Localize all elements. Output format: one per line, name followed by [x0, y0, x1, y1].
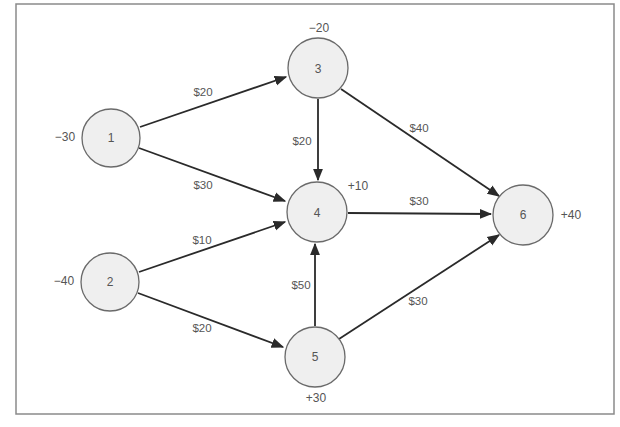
edge-cost-3-4: $20 [292, 135, 311, 147]
network-diagram: $20 $30 $10 $20 $20 $40 $30 $50 $30 1 −3… [0, 0, 620, 427]
edge-4-6 [348, 213, 491, 214]
node-label: 3 [315, 62, 322, 76]
node-supply: −40 [54, 274, 75, 288]
node-label: 4 [314, 206, 321, 220]
node-label: 6 [520, 208, 527, 222]
node-supply: +30 [306, 391, 327, 405]
node-supply: −20 [309, 21, 330, 35]
edge-cost-2-5: $20 [192, 322, 211, 334]
edge-cost-3-6: $40 [409, 122, 428, 134]
node-label: 1 [108, 131, 115, 145]
edge-cost-1-3: $20 [193, 86, 212, 98]
edge-cost-5-4: $50 [291, 279, 310, 291]
node-supply: +40 [561, 208, 582, 222]
node-label: 5 [312, 350, 319, 364]
edge-cost-1-4: $30 [193, 179, 212, 191]
node-supply: −30 [55, 130, 76, 144]
node-supply: +10 [348, 179, 369, 193]
edge-cost-2-4: $10 [192, 234, 211, 246]
node-label: 2 [107, 275, 114, 289]
edge-cost-4-6: $30 [409, 195, 428, 207]
edge-cost-5-6: $30 [408, 295, 427, 307]
